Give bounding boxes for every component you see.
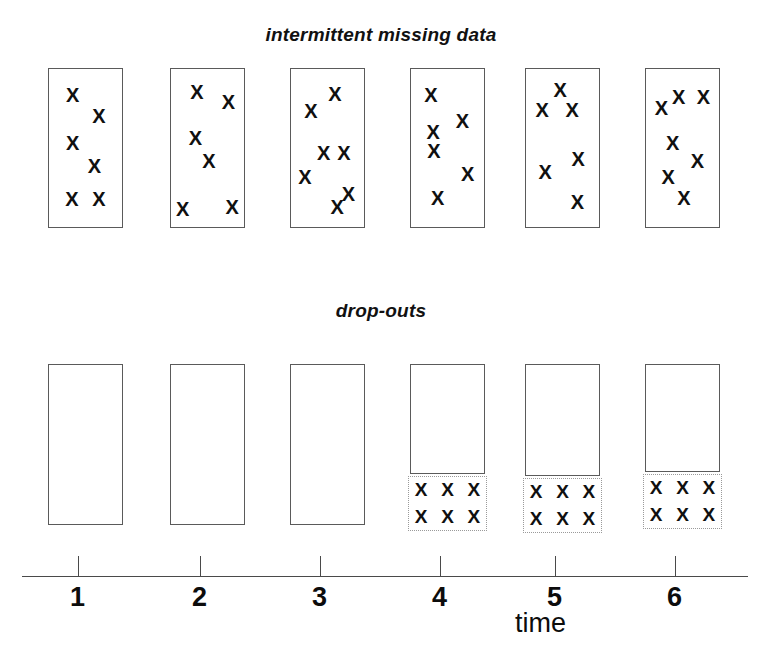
dropout-observed-box-t2 (170, 364, 245, 525)
panel-title-intermittent: intermittent missing data (0, 24, 762, 46)
dropout-mark: X (530, 482, 543, 502)
observation-mark: X (337, 143, 350, 163)
observation-mark: X (189, 128, 202, 148)
observation-mark: X (691, 151, 704, 171)
observation-mark: X (222, 92, 235, 112)
observation-mark: X (539, 162, 552, 182)
observation-mark: X (672, 87, 685, 107)
intermittent-box-t1 (48, 68, 123, 228)
observation-mark: X (456, 111, 469, 131)
observation-mark: X (536, 100, 549, 120)
axis-tick-label-2: 2 (192, 582, 207, 612)
dropout-observed-box-t4 (410, 364, 485, 474)
observation-mark: X (655, 98, 668, 118)
observation-mark: X (424, 85, 437, 105)
observation-mark: X (666, 133, 679, 153)
observation-mark: X (427, 141, 440, 161)
dropout-mark: X (415, 480, 428, 500)
observation-mark: X (427, 122, 440, 142)
dropout-mark: X (702, 478, 715, 498)
dropout-mark: X (582, 509, 595, 529)
observation-mark: X (92, 106, 105, 126)
dropout-mark: X (441, 507, 454, 527)
observation-mark: X (566, 100, 579, 120)
axis-tick-label-1: 1 (70, 582, 85, 612)
observation-mark: X (331, 197, 344, 217)
observation-mark: X (662, 167, 675, 187)
intermittent-box-t4 (410, 68, 485, 228)
figure-canvas: intermittent missing data drop-outs XXXX… (0, 0, 762, 660)
dropout-mark: X (650, 505, 663, 525)
dropout-mark: X (467, 480, 480, 500)
dropout-mark: X (467, 507, 480, 527)
dropout-mark: X (441, 480, 454, 500)
axis-tick-3 (320, 556, 321, 576)
axis-line (22, 576, 748, 577)
observation-mark: X (190, 82, 203, 102)
dropout-observed-box-t5 (525, 364, 600, 476)
axis-tick-label-4: 4 (432, 582, 447, 612)
observation-mark: X (431, 188, 444, 208)
observation-mark: X (88, 156, 101, 176)
observation-mark: X (554, 80, 567, 100)
panel-title-dropouts: drop-outs (0, 300, 762, 322)
observation-mark: X (328, 84, 341, 104)
observation-mark: X (202, 151, 215, 171)
dropout-mark: X (415, 507, 428, 527)
dropout-observed-box-t3 (290, 364, 365, 525)
axis-tick-2 (200, 556, 201, 576)
dropout-observed-box-t6 (645, 364, 720, 472)
observation-mark: X (92, 189, 105, 209)
observation-mark: X (317, 143, 330, 163)
observation-mark: X (571, 192, 584, 212)
observation-mark: X (697, 87, 710, 107)
dropout-mark: X (702, 505, 715, 525)
observation-mark: X (298, 167, 311, 187)
axis-tick-1 (78, 556, 79, 576)
observation-mark: X (66, 133, 79, 153)
dropout-mark: X (676, 478, 689, 498)
dropout-mark: X (556, 509, 569, 529)
dropout-mark: X (650, 478, 663, 498)
observation-mark: X (572, 149, 585, 169)
dropout-observed-box-t1 (48, 364, 123, 525)
axis-tick-label-6: 6 (667, 582, 682, 612)
axis-tick-label-3: 3 (312, 582, 327, 612)
axis-tick-5 (555, 556, 556, 576)
observation-mark: X (176, 199, 189, 219)
observation-mark: X (66, 85, 79, 105)
observation-mark: X (304, 101, 317, 121)
observation-mark: X (677, 188, 690, 208)
dropout-mark: X (676, 505, 689, 525)
observation-mark: X (226, 197, 239, 217)
axis-title-time: time (515, 608, 566, 638)
dropout-mark: X (556, 482, 569, 502)
axis-tick-4 (440, 556, 441, 576)
dropout-mark: X (530, 509, 543, 529)
axis-tick-6 (675, 556, 676, 576)
dropout-mark: X (582, 482, 595, 502)
observation-mark: X (65, 189, 78, 209)
observation-mark: X (461, 164, 474, 184)
